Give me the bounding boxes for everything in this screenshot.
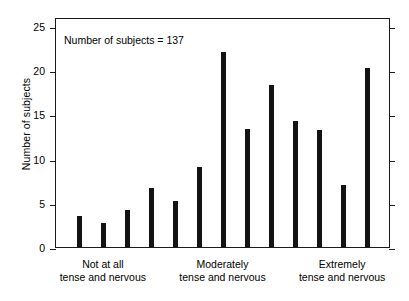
y-tick-label-25: 25 [15, 22, 45, 33]
y-tick-label-20: 20 [15, 66, 45, 77]
y-tick-0 [50, 249, 56, 250]
x-category-label-3: Extremelytense and nervous [299, 258, 385, 284]
y-tick-right-10 [389, 161, 395, 162]
bar [293, 121, 298, 247]
y-tick-label-10: 10 [15, 155, 45, 166]
plot-area [55, 18, 390, 248]
y-tick-label-5: 5 [15, 199, 45, 210]
bar [77, 216, 82, 247]
bar [101, 223, 106, 247]
bar [149, 188, 154, 247]
x-category-label-line2: tense and nervous [60, 271, 146, 284]
x-category-label-2: Moderatelytense and nervous [179, 258, 265, 284]
y-tick-right-5 [389, 205, 395, 206]
y-tick-right-25 [389, 28, 395, 29]
bar [173, 201, 178, 247]
y-tick-right-15 [389, 116, 395, 117]
y-tick-label-15: 15 [15, 110, 45, 121]
y-tick-5 [50, 205, 56, 206]
x-category-label-line2: tense and nervous [299, 271, 385, 284]
y-tick-20 [50, 72, 56, 73]
bar [245, 129, 250, 247]
x-category-label-line2: tense and nervous [179, 271, 265, 284]
bar [341, 185, 346, 247]
x-category-label-line1: Moderately [179, 258, 265, 271]
histogram-figure: Number of subjects 0510152025 Not at all… [0, 0, 409, 301]
bar [365, 68, 370, 247]
bar [269, 85, 274, 247]
y-tick-10 [50, 161, 56, 162]
y-tick-15 [50, 116, 56, 117]
bar [125, 210, 130, 247]
y-tick-right-20 [389, 72, 395, 73]
x-category-label-line1: Not at all [60, 258, 146, 271]
bar [197, 167, 202, 247]
y-tick-25 [50, 28, 56, 29]
subjects-count-annotation: Number of subjects = 137 [64, 34, 184, 46]
y-tick-right-0 [389, 249, 395, 250]
x-category-label-1: Not at alltense and nervous [60, 258, 146, 284]
bar [317, 130, 322, 247]
bar [221, 52, 226, 247]
x-category-label-line1: Extremely [299, 258, 385, 271]
y-tick-label-0: 0 [15, 243, 45, 254]
